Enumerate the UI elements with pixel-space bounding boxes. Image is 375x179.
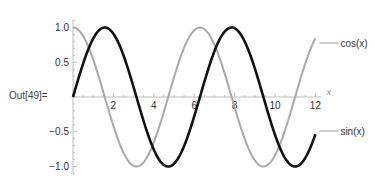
x-tick-label: 4 <box>151 100 157 111</box>
x-tick-label: 10 <box>269 100 281 111</box>
y-tick-label: 0.5 <box>55 57 69 68</box>
y-tick-label: 1.0 <box>55 22 69 33</box>
function-plot: 246810121.00.5−0.5−1.0x cos(x) sin(x) <box>0 0 375 179</box>
y-tick-label: −0.5 <box>49 126 69 137</box>
x-tick-label: 2 <box>111 100 117 111</box>
x-tick-label: 12 <box>310 100 322 111</box>
y-tick-label: −1.0 <box>49 161 69 172</box>
x-axis-title: x <box>325 87 331 97</box>
legend-label-sin: sin(x) <box>340 126 364 137</box>
legend-label-cos: cos(x) <box>340 38 367 49</box>
